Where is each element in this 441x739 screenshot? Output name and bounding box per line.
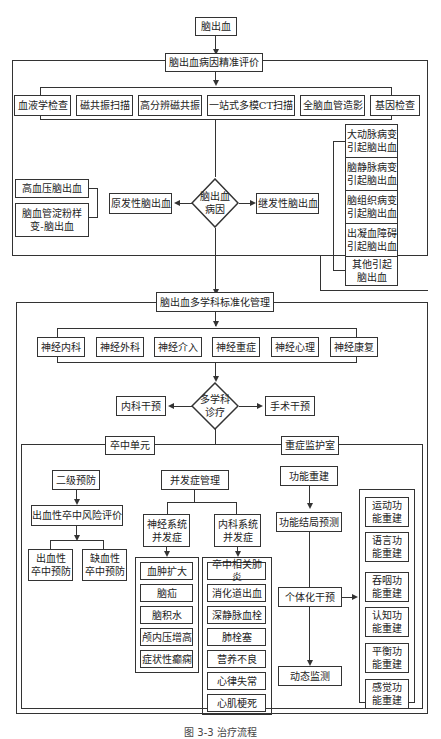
secondary-frame [320, 255, 428, 291]
arrow-down-icon [213, 80, 219, 86]
bleeding-risk-eval: 出血性卒中风险评价 [31, 505, 123, 526]
secondary-ich: 继发性脑出血 [256, 193, 319, 214]
dept-intervention: 神经介入 [154, 337, 202, 357]
connector [178, 203, 192, 204]
icu-title: 重症监护室 [281, 436, 339, 455]
exam-dsa: 全脑血管造影 [300, 95, 365, 116]
medical-complications: 内科系统 并发症 [214, 514, 261, 547]
exam-gene: 基因检查 [370, 95, 420, 116]
rebuild-item: 平衡功 能重建 [365, 643, 409, 673]
rebuild-item: 感觉功 能重建 [365, 679, 409, 709]
medical-comp-item: 心肌梗死 [207, 694, 266, 712]
connector [215, 228, 216, 294]
primary-ich: 原发性脑出血 [109, 193, 172, 214]
rebuild-item: 吞咽功 能重建 [365, 572, 409, 602]
medical-comp-item: 心律失常 [207, 672, 266, 690]
individualized-intervention: 个体化干预 [278, 587, 342, 607]
venous-ich: 脑静脉病变 引起脑出血 [345, 157, 398, 191]
etiology-eval-title: 脑出血病因精准评价 [165, 53, 263, 72]
exam-mri: 磁共振扫描 [76, 95, 133, 116]
connector [50, 540, 104, 541]
connector [97, 188, 98, 218]
exam-blood: 血液学检查 [14, 95, 71, 116]
dept-neurosurgery: 神经外科 [96, 337, 144, 357]
medical-intervention: 内科干预 [116, 396, 166, 416]
exam-hr-mri: 高分辨磁共振 [138, 95, 202, 116]
arrow-right-icon [352, 594, 358, 600]
connector [57, 362, 357, 363]
outcome-prediction: 功能结局预测 [276, 512, 342, 532]
medical-comp-item: 卒中相关肺炎 [207, 562, 266, 580]
connector [167, 502, 237, 503]
rebuild-item: 语言功 能重建 [365, 532, 409, 562]
neuro-comp-item: 血肿扩大 [140, 562, 193, 580]
complication-management: 并发症管理 [161, 470, 229, 490]
connector [333, 141, 345, 142]
arrow-left-icon [174, 200, 180, 206]
cause-diamond-label: 脑出血 病因 [191, 178, 239, 228]
mdt-diamond: 多学科 诊疗 [191, 382, 239, 430]
arterial-ich: 大动脉病变 引起脑出血 [345, 124, 398, 158]
root-node: 脑出血 [195, 17, 237, 36]
tissue-ich: 脑组织病变 引起脑出血 [345, 190, 398, 224]
surgical-intervention: 手术干预 [265, 396, 315, 416]
cause-diamond: 脑出血 病因 [191, 178, 239, 228]
connector [194, 490, 195, 502]
exam-ct: 一站式多模CT扫描 [207, 95, 295, 116]
figure-caption: 图 3-3 治疗流程 [0, 724, 441, 739]
dept-rehab: 神经康复 [330, 337, 378, 357]
arrow-right-icon [257, 403, 263, 409]
connector [309, 607, 310, 663]
coagulation-ich: 出凝血障碍 引起脑出血 [345, 223, 398, 257]
neuro-complications: 神经系统 并发症 [143, 514, 190, 547]
connector [167, 502, 168, 514]
connector [172, 406, 192, 407]
neuro-comp-item: 症状性癫痫 [140, 650, 193, 668]
hypertensive-ich: 高血压脑出血 [15, 179, 89, 198]
medical-comp-item: 深静脉血栓 [207, 606, 266, 624]
ischemic-prevention: 缺血性 卒中预防 [82, 549, 127, 581]
rebuild-item: 运动功 能重建 [365, 497, 409, 527]
mdt-title: 脑出血多学科标准化管理 [156, 292, 274, 312]
medical-comp-item: 消化道出血 [207, 584, 266, 602]
connector [239, 406, 259, 407]
medical-comp-item: 营养不良 [207, 650, 266, 668]
mdt-diamond-label: 多学科 诊疗 [191, 382, 239, 430]
rebuild-item: 认知功 能重建 [365, 607, 409, 637]
connector [215, 429, 216, 445]
dept-neuro-icu: 神经重症 [212, 337, 260, 357]
neuro-comp-item: 脑积水 [140, 606, 193, 624]
connector [215, 119, 216, 177]
dynamic-monitoring: 动态监测 [278, 666, 342, 686]
caa-ich: 脑血管淀粉样 变-脑出血 [15, 203, 89, 237]
connector [236, 502, 237, 514]
connector [333, 141, 334, 270]
medical-comp-item: 肺栓塞 [207, 628, 266, 646]
stroke-unit-title: 卒中单元 [105, 436, 155, 455]
neuro-comp-item: 颅内压增高 [140, 628, 193, 646]
secondary-prevention: 二级预防 [52, 470, 100, 490]
hemorrhagic-prevention: 出血性 卒中预防 [28, 549, 73, 581]
connector [57, 328, 357, 329]
arrow-down-icon [307, 503, 313, 509]
dept-neurology: 神经内科 [37, 337, 85, 357]
connector [215, 36, 216, 50]
arrow-left-icon [168, 403, 174, 409]
connector [309, 532, 310, 594]
connector [40, 87, 392, 88]
arrow-down-icon [213, 321, 219, 327]
neuro-comp-item: 脑疝 [140, 584, 193, 602]
dept-psychology: 神经心理 [271, 337, 319, 357]
function-rebuild: 功能重建 [280, 466, 338, 486]
